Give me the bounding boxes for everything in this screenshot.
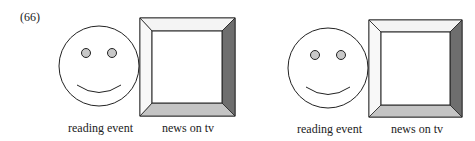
- box-label-right: news on tv: [391, 122, 443, 137]
- tv-box-icon-right: [369, 20, 462, 117]
- smiley-face-icon-right: [288, 28, 368, 108]
- diagram-canvas: [0, 0, 475, 141]
- smiley-face-icon-left: [59, 26, 139, 106]
- face-label-left: reading event: [68, 121, 133, 136]
- box-label-left: news on tv: [162, 121, 214, 136]
- face-label-right: reading event: [297, 122, 362, 137]
- tv-box-icon-left: [140, 18, 235, 116]
